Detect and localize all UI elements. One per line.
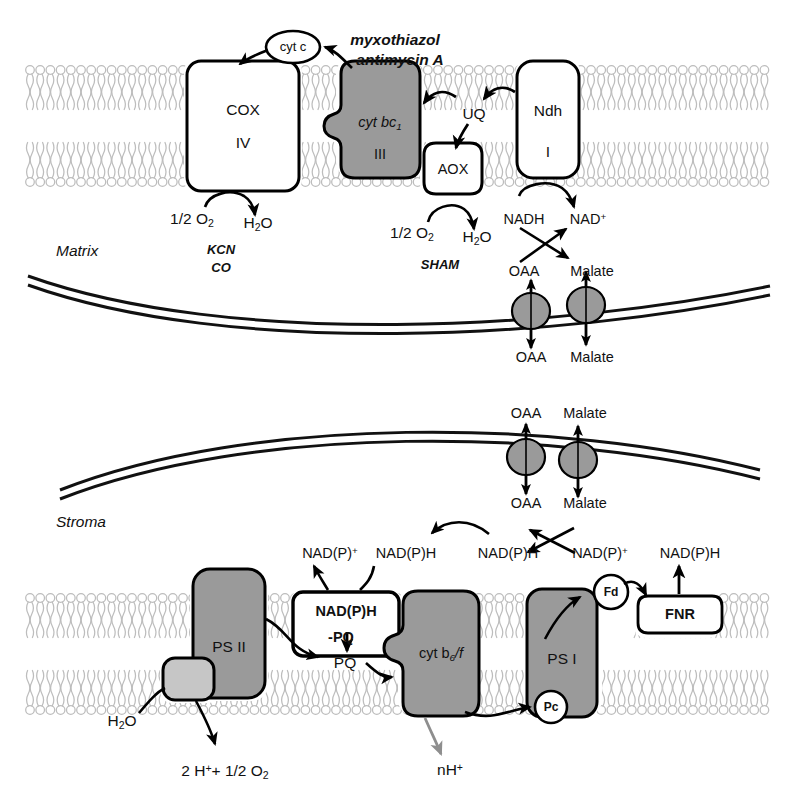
arrow-nadph-into-ndhbox xyxy=(360,566,374,590)
stroma-nadph-right: NAD(P)H xyxy=(660,546,720,561)
mito-outer-membrane-line1 xyxy=(28,276,770,325)
stroma-nadp-plus-mid: NAD(P)+ xyxy=(572,546,628,561)
substrate-aox-o2: 1/2 O2 xyxy=(390,225,434,243)
arrow-aox-o2-to-h2o xyxy=(428,205,474,229)
compartment-label-matrix: Matrix xyxy=(56,243,98,259)
stroma-nadp-plus-left: NAD(P)+ xyxy=(302,546,358,561)
inhibitor-kcn: KCN xyxy=(207,243,235,257)
complex-ndh-label: Ndh xyxy=(534,103,562,119)
metabolite-malate-cytosol: Malate xyxy=(570,350,614,365)
metabolite-oaa-outside-chloroplast: OAA xyxy=(511,406,542,421)
arrow-oaa-to-nadplus xyxy=(520,229,566,262)
carrier-pq-label: PQ xyxy=(334,655,356,671)
substrate-nadh: NADH xyxy=(503,212,544,227)
arrow-nadh-to-nadplus xyxy=(519,183,574,207)
substrate-nad-plus: NAD+ xyxy=(570,212,606,227)
stroma-nadph-left: NAD(P)H xyxy=(376,546,436,561)
complex-ps-i-label: PS I xyxy=(547,651,576,667)
complex-cox-label: COX xyxy=(226,102,260,118)
carrier-pc-label: Pc xyxy=(544,701,559,714)
arrow-bc1-to-cytc xyxy=(325,47,352,68)
metabolite-malate-stroma: Malate xyxy=(563,496,607,511)
carrier-fd-label: Fd xyxy=(604,586,619,599)
substrate-cox-h2o: H2O xyxy=(243,215,272,233)
diagram-canvas: myxothiazol antimycin A cyt c COX IV cyt… xyxy=(0,0,798,800)
arrow-cytb6f-to-proton xyxy=(425,718,441,754)
substrate-aox-h2o: H2O xyxy=(462,229,491,247)
arrow-nadph-transfer xyxy=(432,522,489,534)
complex-ndh-i[interactable] xyxy=(517,61,579,178)
metabolite-malate-outside-chloroplast: Malate xyxy=(563,406,607,421)
inhibitor-co: CO xyxy=(211,261,231,275)
metabolite-malate-matrix: Malate xyxy=(570,264,614,279)
complex-ps-ii-label: PS II xyxy=(212,639,246,655)
compartment-label-stroma: Stroma xyxy=(56,514,106,530)
carrier-cyt-c-label: cyt c xyxy=(280,40,307,54)
product-proton-pump: nH+ xyxy=(437,762,463,779)
complex-ndh-pq-line2: -PQ xyxy=(328,630,354,645)
mito-outer-membrane-line2 xyxy=(28,285,770,334)
complex-aox-label: AOX xyxy=(438,162,469,177)
arrow-ndhbox-to-nadp xyxy=(314,566,328,590)
complex-ndh-pq-line1: NAD(P)H xyxy=(315,604,376,619)
inhibitor-sham: SHAM xyxy=(421,258,459,272)
carrier-uq-label: UQ xyxy=(462,106,485,122)
inhibitor-antimycin-a: antimycin A xyxy=(356,52,443,68)
substrate-water-psii: H2O xyxy=(107,713,136,731)
product-oxygen-protons: 2 H++ 1/2 O2 xyxy=(181,763,268,781)
enzyme-fnr-label: FNR xyxy=(665,607,695,622)
complex-bc1-roman: III xyxy=(374,147,386,162)
complex-cyt-b6f-label: cyt b6/f xyxy=(419,646,463,663)
complex-oxygen-evolving-center[interactable] xyxy=(163,658,214,700)
complex-cox-iv[interactable] xyxy=(187,61,299,191)
substrate-cox-o2: 1/2 O2 xyxy=(170,211,214,229)
complex-bc1-label: cyt bc1 xyxy=(358,115,401,132)
metabolite-oaa-matrix: OAA xyxy=(509,264,540,279)
complex-ndh-roman: I xyxy=(546,144,550,160)
complex-cox-roman: IV xyxy=(236,135,251,151)
stroma-nadph-mid: NAD(P)H xyxy=(478,546,538,561)
metabolite-oaa-cytosol: OAA xyxy=(516,350,547,365)
inhibitor-myxothiazol: myxothiazol xyxy=(350,32,440,48)
metabolite-oaa-stroma: OAA xyxy=(511,496,542,511)
